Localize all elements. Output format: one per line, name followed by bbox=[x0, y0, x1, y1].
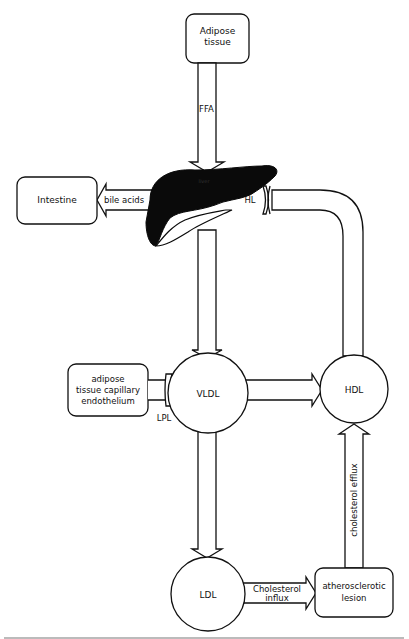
adipose-capillary-label-2: tissue capillary bbox=[76, 385, 140, 395]
liver-label: liver bbox=[199, 178, 211, 184]
hdl-label: HDL bbox=[345, 385, 364, 395]
adipose-tissue-label-1: Adipose bbox=[200, 26, 236, 36]
vldl-label: VLDL bbox=[196, 389, 219, 399]
lipoprotein-metabolism-diagram: Adipose tissue FFA bile acids Intestine … bbox=[0, 0, 409, 639]
adipose-tissue-label-2: tissue bbox=[204, 37, 231, 47]
intestine-label: Intestine bbox=[37, 195, 77, 205]
vldl-to-ldl-arrow bbox=[192, 430, 222, 558]
liver-to-vldl-arrow bbox=[192, 230, 222, 358]
atherosclerotic-lesion-node: atherosclerotic lesion bbox=[315, 568, 393, 617]
ldl-label: LDL bbox=[200, 590, 217, 600]
cholesterol-efflux-arrow: cholesterol efflux bbox=[339, 424, 369, 568]
bile-acids-label: bile acids bbox=[104, 195, 145, 205]
adipose-capillary-node: adipose tissue capillary endothelium bbox=[68, 364, 148, 416]
ldl-node: LDL bbox=[171, 557, 245, 631]
vldl-node: VLDL bbox=[168, 353, 248, 433]
lpl-label: LPL bbox=[157, 413, 172, 423]
cholesterol-influx-label-2: influx bbox=[265, 593, 289, 603]
vldl-to-hdl-arrow bbox=[244, 374, 322, 406]
adipose-capillary-label-3: endothelium bbox=[81, 396, 135, 406]
hdl-node: HDL bbox=[320, 355, 388, 423]
lesion-label-1: atherosclerotic bbox=[322, 581, 386, 591]
hl-label: HL bbox=[244, 195, 255, 205]
cholesterol-efflux-label: cholesterol efflux bbox=[349, 463, 359, 536]
hdl-to-liver-pipe bbox=[272, 190, 363, 356]
ffa-label: FFA bbox=[199, 104, 214, 114]
adipose-tissue-node: Adipose tissue bbox=[186, 14, 249, 63]
intestine-node: Intestine bbox=[17, 177, 97, 224]
lesion-label-2: lesion bbox=[342, 593, 367, 603]
ffa-arrow: FFA bbox=[190, 63, 224, 172]
cholesterol-influx-arrow: Cholesterol influx bbox=[240, 577, 316, 609]
adipose-capillary-label-1: adipose bbox=[91, 374, 124, 384]
